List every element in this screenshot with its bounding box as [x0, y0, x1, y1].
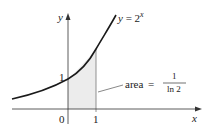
x-axis-arrow-icon — [195, 107, 202, 112]
curve-label-eq: = 2 — [123, 12, 140, 24]
shaded-area — [68, 49, 96, 109]
x-tick-0: 0 — [59, 114, 65, 125]
area-denominator: ln 2 — [167, 85, 181, 94]
y-axis-arrow-icon — [66, 13, 71, 20]
curve-2-pow-x — [12, 15, 116, 99]
area-label: area — [125, 79, 143, 90]
y-tick-1: 1 — [59, 72, 65, 83]
graph-canvas — [0, 0, 212, 129]
curve-label: y = 2x — [118, 11, 144, 24]
area-leader-line — [98, 85, 123, 92]
curve-label-exp: x — [140, 10, 144, 19]
x-tick-1: 1 — [93, 114, 99, 125]
area-equals: = — [148, 79, 154, 90]
y-axis-label: y — [58, 12, 63, 23]
x-axis-label: x — [192, 113, 197, 124]
area-numerator: 1 — [172, 72, 177, 81]
